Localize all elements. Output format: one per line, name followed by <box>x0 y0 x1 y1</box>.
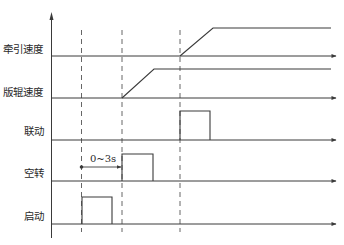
label-traction-speed: 牵引速度 <box>3 43 43 55</box>
time-markers <box>82 30 181 232</box>
label-idle: 空转 <box>24 167 44 179</box>
waveform-linkage <box>180 111 210 140</box>
waveform-traction-speed <box>180 28 331 56</box>
y-axis-arrow-icon <box>50 12 54 20</box>
y-axis <box>50 12 54 238</box>
label-start: 启动 <box>24 210 44 222</box>
timing-diagram <box>0 0 344 245</box>
signal-baselines <box>52 56 337 224</box>
label-plate-roller-speed: 版辊速度 <box>3 86 43 98</box>
delay-annotation <box>80 165 121 169</box>
waveforms <box>82 28 331 224</box>
label-linkage: 联动 <box>24 125 44 137</box>
delay-annotation-label: 0~3s <box>90 153 116 165</box>
waveform-plate-roller-speed <box>122 69 331 98</box>
waveform-start <box>82 197 112 224</box>
waveform-idle <box>122 154 153 181</box>
